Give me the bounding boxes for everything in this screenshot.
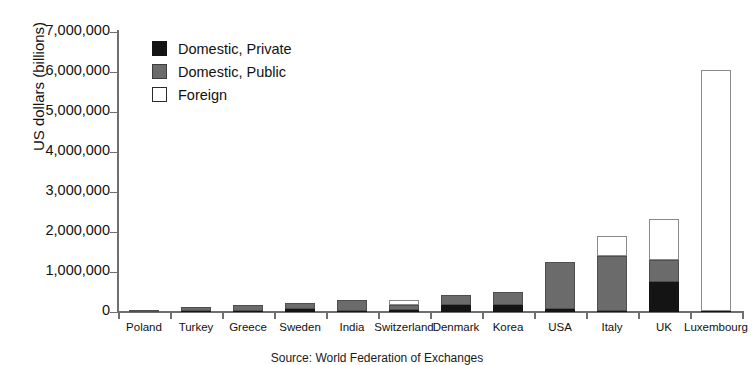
y-axis-tick	[110, 232, 118, 234]
bar-group[interactable]	[701, 70, 731, 312]
bar-segment-foreign	[389, 300, 419, 306]
bar-group[interactable]	[441, 295, 471, 312]
bar-group[interactable]	[285, 303, 315, 312]
y-axis-tick-label: 7,000,000	[10, 22, 110, 38]
bar-segment-foreign	[649, 219, 679, 260]
bar-segment-domestic-public	[597, 256, 627, 311]
x-axis-tick	[222, 312, 224, 319]
x-axis-tick	[170, 312, 172, 319]
bar-group[interactable]	[597, 236, 627, 312]
legend-item-domestic-public: Domestic, Public	[152, 61, 292, 82]
y-axis-tick	[110, 312, 118, 314]
legend-item-label: Foreign	[178, 87, 227, 103]
legend-item-label: Domestic, Public	[178, 64, 286, 80]
bar-group[interactable]	[233, 305, 263, 312]
y-axis-tick	[110, 112, 118, 114]
y-axis-tick-label: 4,000,000	[10, 142, 110, 158]
bar-group[interactable]	[545, 262, 575, 312]
bar-group[interactable]	[649, 219, 679, 312]
bar-segment-domestic-public	[337, 300, 367, 311]
bar-group[interactable]	[493, 292, 523, 312]
x-axis-tick	[430, 312, 432, 319]
bar-segment-domestic-public	[129, 310, 159, 312]
source-caption: Source: World Federation of Exchanges	[0, 351, 754, 365]
y-axis-tick-label: 0	[10, 302, 110, 318]
bar-segment-foreign	[597, 236, 627, 256]
bar-group[interactable]	[389, 300, 419, 312]
y-axis-tick-label: 2,000,000	[10, 222, 110, 238]
bar-segment-domestic-private	[493, 305, 523, 312]
x-axis-tick	[274, 312, 276, 319]
x-axis-tick	[586, 312, 588, 319]
bar-segment-domestic-private	[389, 310, 419, 312]
bar-group[interactable]	[129, 310, 159, 312]
bar-segment-domestic-private	[285, 309, 315, 312]
chart-legend: Domestic, Private Domestic, Public Forei…	[152, 38, 292, 107]
x-axis-tick	[690, 312, 692, 319]
y-axis-tick-label: 5,000,000	[10, 102, 110, 118]
bar-segment-domestic-public	[441, 295, 471, 305]
bar-group[interactable]	[181, 307, 211, 312]
bar-segment-domestic-public	[493, 292, 523, 305]
y-axis-tick-label: 6,000,000	[10, 62, 110, 78]
y-axis-tick-label: 3,000,000	[10, 182, 110, 198]
y-axis-tick	[110, 192, 118, 194]
legend-item-foreign: Foreign	[152, 84, 292, 105]
legend-swatch-white-square-icon	[152, 87, 167, 102]
y-axis-tick	[110, 272, 118, 274]
bar-segment-domestic-private	[441, 305, 471, 312]
y-axis-tick	[110, 32, 118, 34]
legend-item-label: Domestic, Private	[178, 41, 292, 57]
bar-segment-domestic-public	[181, 307, 211, 311]
bar-segment-foreign	[701, 70, 731, 311]
x-axis-tick	[534, 312, 536, 319]
bar-segment-domestic-private	[545, 309, 575, 312]
bar-segment-domestic-public	[285, 303, 315, 309]
y-axis-tick	[110, 72, 118, 74]
bar-segment-domestic-private	[649, 282, 679, 312]
x-axis-tick	[482, 312, 484, 319]
bar-segment-domestic-public	[233, 305, 263, 311]
y-axis-tick	[110, 152, 118, 154]
bar-group[interactable]	[337, 300, 367, 312]
x-axis-tick	[326, 312, 328, 319]
bar-segment-domestic-public	[649, 260, 679, 282]
x-axis-category-label: Luxembourg	[671, 321, 754, 333]
x-axis-tick	[118, 312, 120, 319]
y-axis-tick-label: 1,000,000	[10, 262, 110, 278]
legend-item-domestic-private: Domestic, Private	[152, 38, 292, 59]
x-axis-tick	[742, 312, 744, 319]
legend-swatch-gray-square-icon	[152, 64, 167, 79]
bar-segment-domestic-public	[545, 262, 575, 309]
x-axis-tick	[638, 312, 640, 319]
legend-swatch-black-square-icon	[152, 41, 167, 56]
bar-segment-domestic-public	[389, 305, 419, 309]
x-axis-tick	[378, 312, 380, 319]
